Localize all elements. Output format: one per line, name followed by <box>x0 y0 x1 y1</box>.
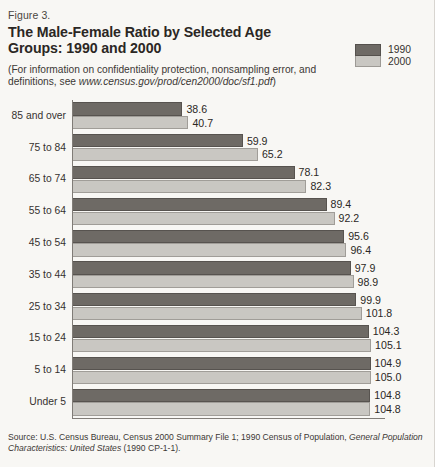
bar-value-label: 105.0 <box>375 371 402 383</box>
bar-value-label: 78.1 <box>299 166 320 178</box>
bar-2000 <box>73 243 346 256</box>
category-label: 85 and over <box>12 110 66 122</box>
category-label: 65 to 74 <box>29 173 66 185</box>
legend-swatch-2000 <box>355 56 381 68</box>
bar-value-label: 104.8 <box>374 403 401 415</box>
bar-2000 <box>73 402 370 415</box>
bar-2000 <box>73 371 371 384</box>
bar-value-label: 82.3 <box>310 180 331 192</box>
source-text-post: (1990 CP-1-1). <box>121 443 180 453</box>
bar-group: 25 to 3499.9101.8 <box>73 291 385 323</box>
category-label: 25 to 34 <box>29 301 66 313</box>
bar-group: 15 to 24104.3105.1 <box>73 323 385 355</box>
bar-value-label: 97.9 <box>355 262 376 274</box>
figure-source-note: Source: U.S. Census Bureau, Census 2000 … <box>8 432 424 453</box>
bar-value-label: 96.4 <box>350 244 371 256</box>
bar-2000 <box>73 307 362 320</box>
page-title: The Male-Female Ratio by Selected Age Gr… <box>8 24 318 57</box>
bar-chart-plot-area: 85 and over38.640.775 to 8459.965.265 to… <box>72 100 385 418</box>
figure-number: Figure 3. <box>8 9 426 22</box>
bar-value-label: 105.1 <box>375 339 402 351</box>
category-label: 75 to 84 <box>29 142 66 154</box>
bar-value-label: 104.3 <box>373 325 400 337</box>
bar-value-label: 95.6 <box>348 230 369 242</box>
legend-swatch-1990 <box>355 44 381 56</box>
category-label: 45 to 54 <box>29 237 66 249</box>
figure-subtitle: (For information on confidentiality prot… <box>8 64 338 89</box>
bar-1990 <box>73 166 295 179</box>
bar-group: 55 to 6489.492.2 <box>73 195 385 227</box>
figure-container: Figure 3. The Male-Female Ratio by Selec… <box>0 0 435 467</box>
census-url-link[interactable]: www.census.gov/prod/cen2000/doc/sf1.pdf <box>79 76 273 87</box>
bar-1990 <box>73 293 356 306</box>
category-label: Under 5 <box>29 396 66 408</box>
bar-group: 85 and over38.640.7 <box>73 100 385 132</box>
category-label: 55 to 64 <box>29 205 66 217</box>
bar-value-label: 59.9 <box>247 135 268 147</box>
bar-1990 <box>73 325 369 338</box>
bar-2000 <box>73 148 258 161</box>
legend-item-2000: 2000 <box>355 56 435 68</box>
chart-legend: 1990 2000 <box>355 44 435 67</box>
bar-2000 <box>73 275 354 288</box>
category-label: 5 to 14 <box>35 364 67 376</box>
bar-value-label: 38.6 <box>186 103 207 115</box>
bar-value-label: 104.9 <box>375 357 402 369</box>
category-label: 35 to 44 <box>29 269 66 281</box>
bar-2000 <box>73 116 188 129</box>
category-label: 15 to 24 <box>29 332 66 344</box>
bar-1990 <box>73 102 182 115</box>
bar-1990 <box>73 230 344 243</box>
bar-2000 <box>73 339 371 352</box>
bar-1990 <box>73 357 371 370</box>
bar-1990 <box>73 261 351 274</box>
x-axis-baseline <box>72 418 385 419</box>
bar-1990 <box>73 134 243 147</box>
bar-value-label: 99.9 <box>360 294 381 306</box>
bar-value-label: 98.9 <box>358 276 379 288</box>
bar-value-label: 40.7 <box>192 117 213 129</box>
bar-1990 <box>73 389 370 402</box>
bar-value-label: 92.2 <box>339 212 360 224</box>
legend-label-2000: 2000 <box>388 56 411 68</box>
bar-group: 75 to 8459.965.2 <box>73 132 385 164</box>
bar-value-label: 104.8 <box>374 389 401 401</box>
bar-group: 5 to 14104.9105.0 <box>73 354 385 386</box>
legend-label-1990: 1990 <box>388 44 411 56</box>
bar-group: 65 to 7478.182.3 <box>73 164 385 196</box>
bar-group: 35 to 4497.998.9 <box>73 259 385 291</box>
bar-1990 <box>73 198 327 211</box>
bar-2000 <box>73 212 335 225</box>
subtitle-text-post: ) <box>272 76 275 87</box>
bar-group: Under 5104.8104.8 <box>73 386 385 418</box>
bar-group: 45 to 5495.696.4 <box>73 227 385 259</box>
bar-2000 <box>73 180 306 193</box>
bar-value-label: 101.8 <box>366 307 393 319</box>
bar-value-label: 65.2 <box>262 148 283 160</box>
source-text-pre: Source: U.S. Census Bureau, Census 2000 … <box>8 432 349 442</box>
bar-value-label: 89.4 <box>331 198 352 210</box>
legend-item-1990: 1990 <box>355 44 435 56</box>
